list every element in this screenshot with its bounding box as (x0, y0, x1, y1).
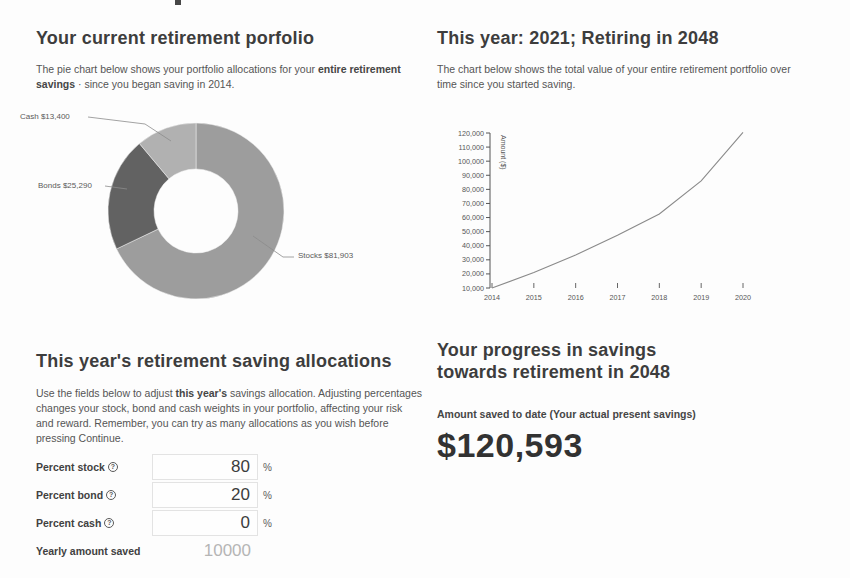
percent-bond-input[interactable] (152, 482, 258, 508)
y-tick-label: 110,000 (459, 143, 484, 152)
y-tick-label: 40,000 (462, 241, 484, 250)
x-tick-label: 2020 (735, 293, 751, 302)
percent-stock-label: Percent stock (36, 461, 105, 473)
x-tick-label: 2015 (526, 293, 542, 302)
percent-cash-suffix: % (263, 518, 272, 529)
y-tick-label: 30,000 (462, 255, 484, 264)
amount-saved-value: $120,593 (437, 426, 827, 465)
section-desc-current-portfolio: The pie chart below shows your portfolio… (36, 62, 420, 92)
help-icon[interactable]: ? (104, 518, 114, 528)
percent-bond-label: Percent bond (36, 489, 103, 501)
portfolio-value-line-chart: 10,00020,00030,00040,00050,00060,00070,0… (450, 120, 790, 310)
percent-cash-input[interactable] (152, 510, 258, 536)
section-desc-year-retiring: The chart below shows the total value of… (437, 62, 813, 92)
percent-stock-suffix: % (263, 462, 272, 473)
x-tick-label: 2016 (568, 293, 584, 302)
section-current-portfolio: Your current retirement porfolio The pie… (36, 28, 426, 92)
y-axis-title: Amount ($) (499, 135, 507, 170)
y-tick-label: 100,000 (458, 157, 484, 166)
help-icon[interactable]: ? (108, 462, 118, 472)
field-row-percent-bond: Percent bond? % (36, 481, 336, 509)
section-year-retiring: This year: 2021; Retiring in 2048 The ch… (437, 28, 827, 92)
pie-label-bonds: Bonds $25,290 (38, 181, 92, 190)
yearly-amount-label: Yearly amount saved (36, 545, 140, 557)
x-tick-label: 2018 (651, 293, 667, 302)
section-title-year-retiring: This year: 2021; Retiring in 2048 (437, 28, 827, 49)
section-progress: Your progress in savings towards retirem… (437, 340, 827, 465)
pie-label-stocks: Stocks $81,903 (298, 251, 353, 260)
portfolio-donut-chart (10, 108, 410, 318)
percent-stock-input[interactable] (152, 454, 258, 480)
x-tick-label: 2019 (693, 293, 709, 302)
section-title-progress: Your progress in savings towards retirem… (437, 340, 692, 384)
field-row-percent-cash: Percent cash? % (36, 509, 336, 537)
y-tick-label: 60,000 (462, 213, 484, 222)
section-allocations: This year's retirement saving allocation… (36, 351, 428, 446)
retirement-dashboard-page: Your current retirement porfolio The pie… (0, 0, 850, 578)
y-tick-label: 20,000 (462, 269, 484, 278)
percent-bond-suffix: % (263, 490, 272, 501)
y-tick-label: 80,000 (462, 185, 484, 194)
pie-label-cash: Cash $13,400 (20, 112, 70, 121)
x-tick-label: 2017 (610, 293, 626, 302)
y-tick-label: 90,000 (462, 171, 484, 180)
y-tick-label: 10,000 (462, 284, 484, 293)
y-tick-label: 70,000 (462, 199, 484, 208)
field-row-percent-stock: Percent stock? % (36, 453, 336, 481)
field-row-yearly-amount: Yearly amount saved (36, 537, 336, 565)
y-tick-label: 120,000 (458, 129, 484, 138)
y-tick-label: 50,000 (462, 227, 484, 236)
portfolio-value-line (492, 132, 743, 288)
section-desc-allocations: Use the fields below to adjust this year… (36, 386, 422, 446)
cropped-title-fragment (175, 0, 181, 5)
percent-cash-label: Percent cash (36, 517, 101, 529)
help-icon[interactable]: ? (106, 490, 116, 500)
x-tick-label: 2014 (484, 293, 500, 302)
amount-saved-label: Amount saved to date (Your actual presen… (437, 408, 827, 420)
yearly-amount-input[interactable] (152, 538, 258, 564)
section-title-allocations: This year's retirement saving allocation… (36, 351, 428, 372)
section-title-current-portfolio: Your current retirement porfolio (36, 28, 426, 49)
